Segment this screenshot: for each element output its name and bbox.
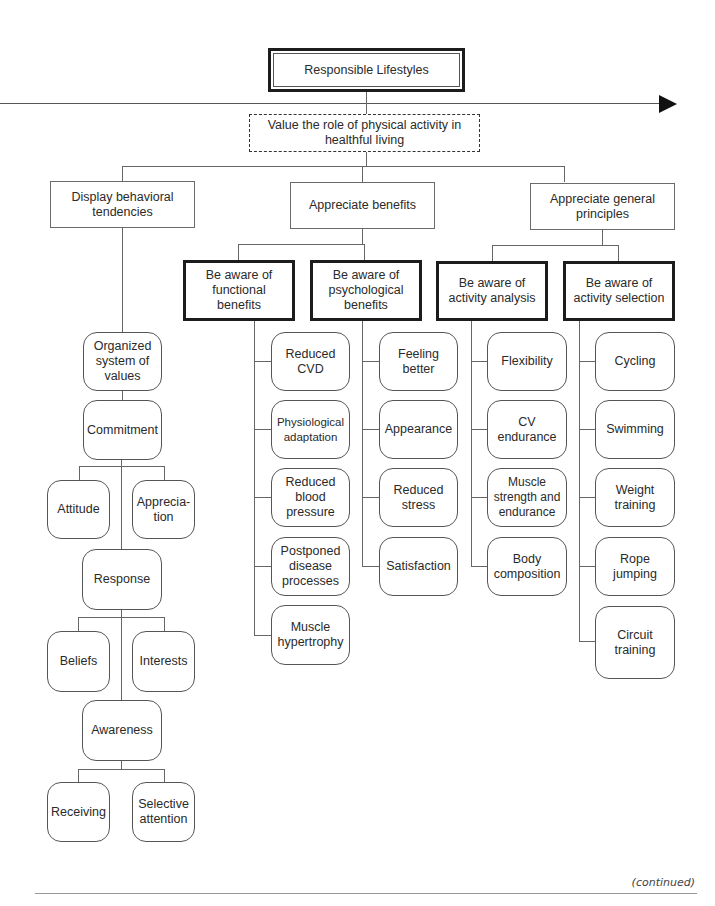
item-postponed-disease: Postponed disease processes: [271, 537, 350, 596]
item-reduced-blood-pressure: Reduced blood pressure: [271, 468, 350, 527]
activity-analysis-node: Be aware of activity analysis: [436, 261, 548, 321]
item-swimming: Swimming: [595, 400, 675, 459]
interests-node: Interests: [132, 631, 195, 692]
item-muscle-strength: Muscle strength and endurance: [487, 468, 567, 527]
item-cycling: Cycling: [595, 332, 675, 391]
arrowhead-icon: [659, 95, 677, 113]
item-reduced-stress: Reduced stress: [379, 468, 458, 527]
response-node: Response: [82, 549, 162, 610]
activity-selection-node: Be aware of activity selection: [563, 261, 675, 321]
appreciation-node: Apprecia- tion: [132, 480, 195, 539]
appreciate-principles-node: Appreciate general principles: [530, 183, 675, 230]
item-circuit-training: Circuit training: [595, 606, 675, 679]
organized-system-node: Organized system of values: [83, 332, 162, 391]
timeline-arrow-line: [0, 103, 662, 104]
item-cv-endurance: CV endurance: [487, 400, 567, 459]
attitude-node: Attitude: [47, 480, 110, 539]
selective-attention-node: Selective attention: [132, 782, 195, 842]
beliefs-node: Beliefs: [47, 631, 110, 692]
goal-node: Value the role of physical activity in h…: [249, 114, 480, 152]
item-rope-jumping: Rope jumping: [595, 537, 675, 596]
goal-label: Value the role of physical activity in h…: [258, 118, 471, 148]
item-flexibility: Flexibility: [487, 332, 567, 391]
psychological-benefits-node: Be aware of psychological benefits: [310, 260, 422, 321]
item-feeling-better: Feeling better: [379, 332, 458, 391]
item-weight-training: Weight training: [595, 468, 675, 527]
item-satisfaction: Satisfaction: [379, 537, 458, 596]
item-muscle-hypertrophy: Muscle hypertrophy: [271, 605, 350, 665]
footer-rule: [35, 893, 697, 894]
root-label: Responsible Lifestyles: [304, 63, 428, 78]
display-behavioral-node: Display behavioral tendencies: [50, 181, 195, 228]
item-body-composition: Body composition: [487, 537, 567, 596]
functional-benefits-node: Be aware of functional benefits: [183, 260, 295, 321]
item-physiological-adaptation: Physiological adaptation: [271, 400, 350, 459]
appreciate-benefits-node: Appreciate benefits: [290, 182, 435, 229]
continued-label: (continued): [632, 876, 695, 889]
item-appearance: Appearance: [379, 400, 458, 459]
commitment-node: Commitment: [83, 400, 162, 460]
root-node: Responsible Lifestyles: [268, 48, 465, 92]
awareness-node: Awareness: [82, 700, 162, 761]
receiving-node: Receiving: [47, 782, 110, 842]
item-reduced-cvd: Reduced CVD: [271, 332, 350, 391]
